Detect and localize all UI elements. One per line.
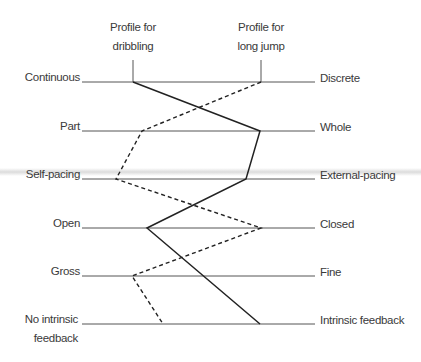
label-whole: Whole [320,118,351,137]
axis-lines [82,60,315,324]
label-continuous: Continuous [0,68,80,87]
header-long-jump: Profile for long jump [216,18,306,56]
header-dribbling: Profile for dribbling [88,18,178,56]
label-closed: Closed [320,215,354,234]
label-part: Part [0,117,80,136]
long-jump-profile-line [116,82,261,324]
label-gross: Gross [0,262,80,281]
label-discrete: Discrete [320,69,360,88]
label-no-intrinsic-feedback: No intrinsic feedback [0,310,78,348]
header-dribbling-line1: Profile for [88,18,178,37]
header-long-jump-line1: Profile for [216,18,306,37]
dribbling-profile-line [133,82,260,324]
label-open: Open [0,214,80,233]
header-dribbling-line2: dribbling [88,37,178,56]
label-fine: Fine [320,263,341,282]
label-self-pacing: Self-pacing [0,165,80,184]
header-long-jump-line2: long jump [216,37,306,56]
label-intrinsic-feedback: Intrinsic feedback [320,311,404,330]
label-external-pacing: External-pacing [320,166,395,185]
